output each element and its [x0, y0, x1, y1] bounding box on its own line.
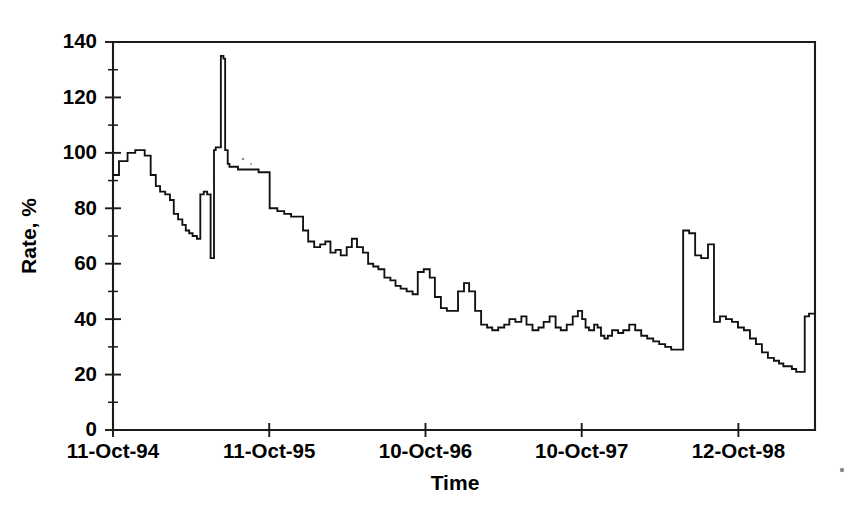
y-tick-label: 60: [74, 251, 97, 274]
line-chart: 020406080100120140 11-Oct-9411-Oct-9510-…: [0, 0, 854, 511]
x-tick-label: 11-Oct-95: [223, 439, 315, 462]
x-tick-label: 11-Oct-94: [67, 439, 160, 462]
y-axis-title: Rate, %: [17, 198, 40, 274]
chart-background: [0, 0, 854, 511]
x-tick-label: 10-Oct-97: [535, 439, 628, 462]
y-tick-label: 0: [86, 417, 97, 440]
x-tick-label: 10-Oct-96: [379, 439, 472, 462]
x-axis-title: Time: [431, 471, 480, 494]
y-tick-label: 120: [63, 85, 97, 108]
scan-speck: [840, 468, 844, 472]
y-tick-label: 100: [63, 140, 97, 163]
y-tick-label: 40: [74, 307, 97, 330]
y-tick-label: 20: [74, 362, 97, 385]
y-tick-label: 80: [74, 196, 97, 219]
y-tick-label: 140: [63, 29, 97, 52]
scan-speck: [250, 163, 252, 165]
scan-speck: [242, 158, 245, 161]
chart-figure: 020406080100120140 11-Oct-9411-Oct-9510-…: [0, 0, 854, 511]
x-tick-label: 12-Oct-98: [692, 439, 785, 462]
